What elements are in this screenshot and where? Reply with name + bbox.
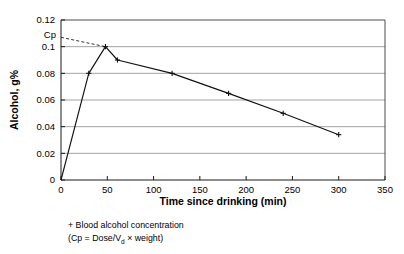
data-point-marker: [169, 71, 174, 76]
x-tick-label: 200: [238, 184, 254, 195]
x-tick-label: 350: [377, 184, 393, 195]
y-tick-label: 0.1: [42, 41, 55, 52]
cp-extrapolation-line: [61, 37, 105, 46]
gridlines: [61, 47, 385, 154]
caption-formula-suffix: × weight): [125, 233, 163, 243]
blood-alcohol-series: [61, 44, 341, 180]
caption-formula-prefix: (Cp = Dose/V: [68, 233, 121, 243]
y-tick-label: 0.06: [37, 94, 56, 105]
caption-line-1: + Blood alcohol concentration: [68, 220, 184, 230]
caption-line-2: (Cp = Dose/Vd × weight): [68, 233, 163, 245]
x-tick-label: 300: [331, 184, 347, 195]
y-tick-label: 0: [50, 174, 55, 185]
x-tick-label: 250: [284, 184, 300, 195]
x-tick-marks: [61, 176, 385, 180]
x-tick-labels: 050100150200250300350: [58, 184, 393, 195]
cp-dashed-line: [61, 37, 105, 46]
data-line: [61, 47, 339, 180]
data-point-marker: [86, 71, 91, 76]
alcohol-concentration-chart: 050100150200250300350 00.020.040.060.080…: [0, 0, 404, 254]
y-tick-label: 0.08: [37, 68, 56, 79]
chart-figure: 050100150200250300350 00.020.040.060.080…: [0, 0, 404, 254]
data-point-marker: [336, 132, 341, 137]
y-tick-label: 0.02: [37, 148, 56, 159]
chart-annotations: Cp: [44, 29, 56, 40]
y-tick-label: 0.04: [37, 121, 56, 132]
x-tick-label: 150: [192, 184, 208, 195]
x-tick-label: 0: [58, 184, 63, 195]
y-tick-label: 0.12: [37, 14, 56, 25]
data-point-marker: [281, 111, 286, 116]
cp-label: Cp: [44, 29, 56, 40]
y-tick-marks: [61, 20, 65, 180]
x-tick-label: 50: [102, 184, 113, 195]
y-axis-title: Alcohol, g%: [8, 69, 20, 130]
data-point-marker: [226, 91, 231, 96]
x-axis-title: Time since drinking (min): [160, 195, 287, 207]
x-tick-label: 100: [146, 184, 162, 195]
